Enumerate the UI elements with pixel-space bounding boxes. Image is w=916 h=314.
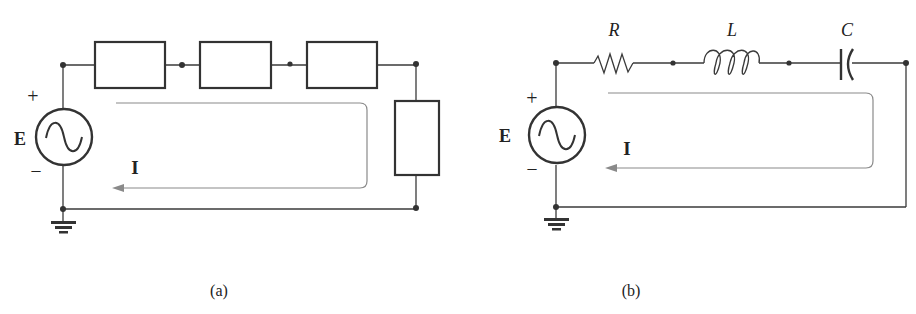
caption-b: (b): [622, 282, 641, 300]
ground-icon: [51, 221, 76, 234]
plus-sign: +: [526, 87, 537, 109]
ground-icon: [544, 218, 569, 231]
current-label: I: [131, 157, 138, 178]
source-label: E: [14, 129, 26, 149]
panel-a-circuit: + – E I (a): [14, 42, 439, 300]
arrowhead-icon: [605, 164, 617, 172]
shunt-impedance: [395, 101, 439, 175]
inductor-icon: [704, 50, 759, 74]
series-impedance-3: [307, 42, 377, 88]
node: [60, 62, 66, 68]
current-flow-path: [116, 103, 367, 188]
inductor-label: L: [726, 20, 737, 40]
node: [179, 62, 185, 68]
plus-sign: +: [27, 85, 38, 107]
ac-source-icon: [529, 107, 585, 163]
ac-source-icon: [36, 109, 92, 165]
node: [287, 61, 292, 66]
capacitor-icon: [841, 49, 853, 80]
arrowhead-icon: [112, 184, 124, 192]
node: [903, 60, 909, 66]
panel-b-circuit: R L C + – E I (b): [499, 20, 909, 300]
node: [553, 60, 559, 66]
node: [670, 60, 675, 65]
current-flow-path: [608, 93, 873, 168]
node: [60, 206, 66, 212]
caption-a: (a): [210, 282, 228, 300]
current-label: I: [623, 138, 630, 159]
resistor-icon: [594, 54, 633, 73]
minus-sign: –: [31, 160, 42, 180]
capacitor-label: C: [841, 20, 854, 40]
series-impedance-1: [95, 42, 165, 88]
resistor-label: R: [608, 20, 620, 40]
source-label: E: [499, 126, 511, 146]
minus-sign: –: [527, 158, 538, 178]
series-impedance-2: [200, 42, 271, 88]
node: [413, 61, 419, 67]
node: [553, 204, 559, 210]
node: [786, 60, 791, 65]
node: [413, 205, 419, 211]
